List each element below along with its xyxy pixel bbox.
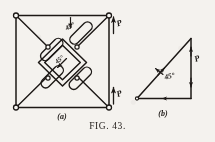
panel-b-vertex — [135, 97, 138, 100]
joint-bottom-left — [14, 105, 19, 110]
panel-a-angle-label: 45° — [63, 21, 76, 33]
panel-a-load-label-top: P — [115, 17, 124, 28]
joint-top-right — [107, 13, 112, 18]
panel-a-inner-angle-label: 45° — [53, 53, 66, 65]
joint-top-left — [14, 13, 19, 18]
joint-bottom-right — [107, 105, 112, 110]
panel-a-sublabel: (a) — [57, 112, 67, 121]
panel-b-sublabel: (b) — [158, 109, 168, 118]
panel-b-force-label: P — [193, 52, 202, 63]
figure-caption-text: FIG. 43. — [89, 121, 126, 131]
figure-43: 45° 45° P P (a) 45° P (b) FIG. 43. — [0, 0, 215, 142]
panel-a-diagonals — [17, 16, 108, 106]
panel-a-load-label-bottom: P — [115, 88, 124, 99]
panel-b-angle-label: 45° — [163, 70, 176, 81]
figure-caption: FIG. 43. — [0, 121, 215, 131]
